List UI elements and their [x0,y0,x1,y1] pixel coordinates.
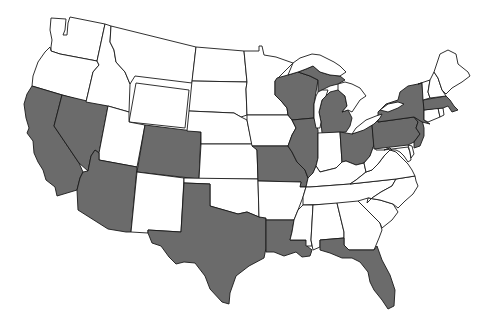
us-map-svg [0,0,493,325]
state-wyoming[interactable] [129,83,189,128]
state-new-mexico[interactable] [131,172,184,233]
state-colorado[interactable] [137,125,201,179]
state-north-dakota[interactable] [192,47,247,82]
state-kansas[interactable] [199,144,258,179]
state-iowa[interactable] [247,115,296,146]
us-map [0,0,493,325]
